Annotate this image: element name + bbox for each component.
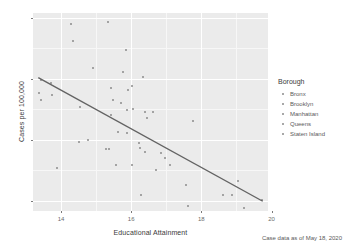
data-point [92, 67, 94, 69]
data-point [117, 131, 119, 133]
data-point [140, 194, 142, 196]
data-point [152, 111, 154, 113]
legend-item[interactable]: Staten Island [278, 129, 346, 138]
data-point [125, 49, 127, 51]
legend-item[interactable]: Queens [278, 119, 346, 128]
data-point [185, 184, 187, 186]
data-point [78, 141, 80, 143]
gridline-horizontal-minor [33, 109, 268, 110]
data-point [142, 76, 144, 78]
legend-point-icon [278, 129, 287, 138]
data-point [50, 82, 52, 84]
data-point [126, 109, 128, 111]
data-point [127, 89, 129, 91]
gridline-vertical-major [201, 13, 202, 211]
data-point [70, 23, 72, 25]
y-axis-title: Cases per 100,000 [18, 57, 25, 167]
data-point [132, 108, 134, 110]
gridline-vertical-major [131, 13, 132, 211]
gridline-horizontal-major [33, 201, 268, 202]
data-point [155, 169, 157, 171]
data-point [126, 132, 128, 134]
data-point [231, 194, 233, 196]
legend-point-icon [278, 89, 287, 98]
data-point [87, 139, 89, 141]
legend-point-icon [278, 119, 287, 128]
data-point [139, 147, 141, 149]
data-point [164, 157, 166, 159]
data-point [261, 199, 263, 201]
legend-item[interactable]: Bronx [278, 89, 346, 98]
x-tick-mark [272, 211, 273, 213]
data-point [110, 114, 112, 116]
gridline-vertical-minor [96, 13, 97, 211]
legend-item-label: Bronx [290, 91, 306, 97]
data-point [138, 142, 140, 144]
data-point [131, 85, 133, 87]
gridline-horizontal-major [33, 79, 268, 80]
gridline-horizontal-major [33, 18, 268, 19]
data-point [243, 207, 245, 209]
plot-panel [33, 13, 268, 211]
x-tick-label: 18 [191, 216, 211, 222]
x-tick-mark [201, 211, 202, 213]
x-tick-mark [61, 211, 62, 213]
data-point [115, 164, 117, 166]
data-point [107, 21, 109, 23]
chart-caption: Case data as of May 18, 2020 [262, 235, 342, 241]
legend-item-label: Manhattan [290, 111, 318, 117]
data-point [110, 87, 112, 89]
legend-item[interactable]: Brooklyn [278, 99, 346, 108]
data-point [169, 164, 171, 166]
data-point [237, 180, 239, 182]
data-point [146, 117, 148, 119]
x-axis-title: Educational Attainment [33, 229, 268, 236]
x-tick-mark [131, 211, 132, 213]
legend: Borough BronxBrooklynManhattanQueensStat… [278, 78, 346, 139]
data-point [51, 94, 53, 96]
legend-point-icon [278, 109, 287, 118]
data-point [40, 99, 42, 101]
legend-title: Borough [278, 78, 346, 85]
data-point [38, 92, 40, 94]
data-point [72, 40, 74, 42]
legend-item-label: Brooklyn [290, 101, 313, 107]
trend-line [33, 13, 268, 211]
gridline-vertical-major [61, 13, 62, 211]
gridline-horizontal-minor [33, 170, 268, 171]
x-tick-label: 14 [51, 216, 71, 222]
legend-point-icon [278, 99, 287, 108]
data-point [131, 164, 133, 166]
legend-items: BronxBrooklynManhattanQueensStaten Islan… [278, 89, 346, 138]
data-point [112, 99, 114, 101]
data-point [144, 151, 146, 153]
gridline-vertical-minor [166, 13, 167, 211]
data-point [222, 194, 224, 196]
data-point [187, 205, 189, 207]
data-point [120, 102, 122, 104]
data-point [122, 71, 124, 73]
data-point [108, 148, 110, 150]
data-point [56, 167, 58, 169]
legend-item-label: Staten Island [290, 131, 325, 137]
legend-item-label: Queens [290, 121, 311, 127]
scatter-chart: Cases per 100,000 Educational Attainment… [0, 0, 346, 251]
data-point [40, 79, 42, 81]
gridline-horizontal-minor [33, 48, 268, 49]
legend-item[interactable]: Manhattan [278, 109, 346, 118]
x-tick-label: 20 [262, 216, 282, 222]
data-point [160, 152, 162, 154]
data-point [105, 148, 107, 150]
gridline-horizontal-major [33, 140, 268, 141]
data-point [192, 120, 194, 122]
x-tick-label: 16 [121, 216, 141, 222]
data-point [79, 106, 81, 108]
data-point [144, 111, 146, 113]
